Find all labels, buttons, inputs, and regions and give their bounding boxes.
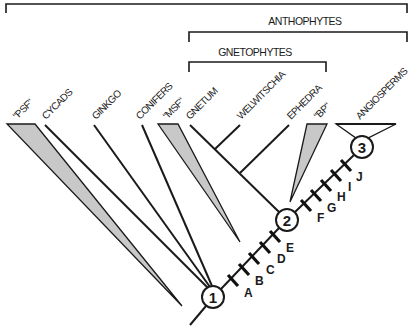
taxon-label-angiosperms: ANGIOSPERMS bbox=[354, 65, 410, 121]
bracket-anthophytes bbox=[189, 32, 407, 42]
taxon-label-ginkgo: GINKGO bbox=[90, 87, 124, 121]
node-2: 2 bbox=[276, 209, 298, 231]
taxon-label-cycads: CYCADS bbox=[40, 86, 75, 121]
spine-node1-node2 bbox=[221, 228, 279, 289]
character-label-c: C bbox=[266, 263, 275, 277]
node-1: 1 bbox=[202, 286, 224, 308]
bracket-label-gnetophytes: GNETOPHYTES bbox=[218, 46, 292, 58]
cladogram-figure: ANTHOPHYTES GNETOPHYTES "PSF" CYCADS GIN… bbox=[0, 0, 415, 330]
node-3: 3 bbox=[351, 136, 373, 158]
character-label-d: D bbox=[277, 252, 286, 266]
branch-welwitschia bbox=[215, 125, 240, 149]
character-ticks-a-e bbox=[228, 231, 280, 286]
node-3-label: 3 bbox=[358, 139, 366, 156]
bracket-all-seed-plants bbox=[6, 4, 407, 13]
character-label-i: I bbox=[348, 180, 351, 194]
taxon-label-gnetum: GNETUM bbox=[184, 85, 220, 121]
clade-bp-triangle bbox=[290, 124, 327, 202]
root-branch bbox=[190, 306, 206, 325]
character-label-h: H bbox=[337, 190, 346, 204]
branch-ephedra bbox=[240, 125, 289, 173]
character-label-j: J bbox=[356, 170, 363, 184]
taxon-label-psf: "PSF" bbox=[11, 96, 36, 121]
character-label-b: B bbox=[255, 274, 264, 288]
clade-msf-triangle bbox=[158, 124, 240, 242]
cladogram-svg: ANTHOPHYTES GNETOPHYTES "PSF" CYCADS GIN… bbox=[0, 0, 415, 330]
node-2-label: 2 bbox=[283, 212, 291, 229]
clade-psf-triangle bbox=[7, 124, 182, 306]
bracket-label-anthophytes: ANTHOPHYTES bbox=[268, 15, 342, 27]
taxon-label-welwitschia: WELWITSCHIA bbox=[235, 68, 288, 121]
character-label-f: F bbox=[317, 211, 324, 225]
character-label-e: E bbox=[286, 241, 294, 255]
taxon-label-bp: "BP" bbox=[312, 100, 333, 121]
branch-gnetum bbox=[190, 125, 279, 212]
bracket-gnetophytes bbox=[189, 62, 326, 72]
character-label-g: G bbox=[327, 201, 336, 215]
character-label-a: A bbox=[244, 286, 253, 300]
node-1-label: 1 bbox=[209, 289, 217, 306]
taxon-label-msf: "MSF" bbox=[161, 95, 187, 121]
